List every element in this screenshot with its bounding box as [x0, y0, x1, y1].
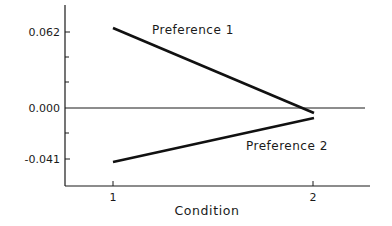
y-tick-label-zero: 0.000 — [29, 102, 61, 115]
y-tick-label-top: 0.062 — [29, 26, 61, 39]
y-ticks — [65, 32, 70, 159]
series-line-preference-1 — [113, 28, 314, 113]
y-tick-label-bottom: -0.041 — [25, 153, 60, 166]
series-label-preference-1: Preference 1 — [152, 23, 234, 37]
series-label-preference-2: Preference 2 — [246, 139, 328, 153]
x-ticks — [113, 181, 313, 186]
x-tick-label-2: 2 — [310, 191, 317, 204]
x-axis-title: Condition — [174, 203, 239, 218]
x-tick-label-1: 1 — [110, 191, 117, 204]
line-chart: 0.062 0.000 -0.041 1 2 Condition Prefere… — [0, 0, 392, 226]
